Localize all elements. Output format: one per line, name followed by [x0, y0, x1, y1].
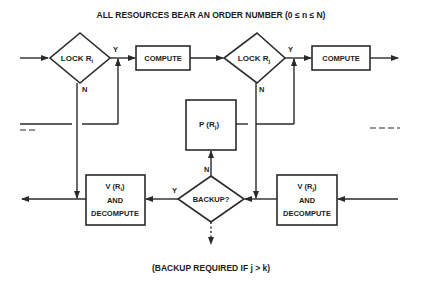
lock-ri-label: LOCK R: [61, 54, 92, 63]
v-ri-line3: DECOMPUTE: [91, 209, 139, 218]
v-rj-line1: V (R: [297, 182, 313, 191]
lock-rj-no-label: N: [259, 85, 264, 94]
backup-label: BACKUP?: [193, 195, 230, 204]
svg-text:LOCK Rj: LOCK Rj: [238, 54, 271, 64]
lock-ri-yes-label: Y: [113, 45, 118, 54]
v-rj-box: V (Rj) AND DECOMPUTE: [277, 175, 337, 225]
p-rj-box: P (Rj): [186, 100, 236, 150]
v-ri-line2: AND: [107, 196, 124, 205]
flowchart: ALL RESOURCES BEAR AN ORDER NUMBER (0 ≤ …: [0, 0, 422, 286]
diagram-footer-note: (BACKUP REQUIRED IF j > k): [152, 263, 270, 273]
compute-2-label: COMPUTE: [322, 54, 360, 63]
backup-decision: BACKUP?: [178, 176, 244, 222]
lock-rj-yes-label: Y: [288, 45, 293, 54]
backup-yes-label: Y: [172, 186, 177, 195]
p-rj-label: P (R: [199, 120, 215, 129]
lock-ri-no-label: N: [82, 85, 87, 94]
svg-text:V (Rj): V (Rj): [297, 182, 317, 192]
v-ri-line1: V (R: [105, 182, 121, 191]
diagram-title: ALL RESOURCES BEAR AN ORDER NUMBER (0 ≤ …: [97, 10, 326, 20]
v-rj-line3: DECOMPUTE: [283, 209, 331, 218]
compute-2-box: COMPUTE: [312, 46, 370, 70]
lock-ri-decision: LOCK Ri: [50, 33, 110, 83]
svg-text:P (Rj): P (Rj): [199, 120, 220, 130]
compute-1-box: COMPUTE: [136, 46, 190, 70]
v-ri-box: V (Ri) AND DECOMPUTE: [86, 175, 145, 225]
svg-text:LOCK Ri: LOCK Ri: [61, 54, 94, 64]
backup-no-label: N: [204, 165, 209, 174]
lock-rj-decision: LOCK Rj: [224, 33, 285, 83]
svg-text:V (Ri): V (Ri): [105, 182, 125, 192]
lock-rj-label: LOCK R: [238, 54, 269, 63]
compute-1-label: COMPUTE: [144, 54, 182, 63]
v-rj-line2: AND: [299, 196, 316, 205]
